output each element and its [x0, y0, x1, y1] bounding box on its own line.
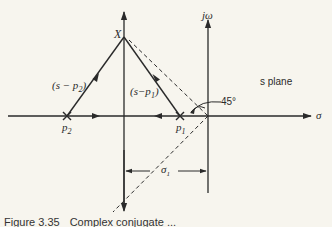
pole-p1-label: p1: [176, 122, 186, 136]
axis-arrow-icon: [154, 113, 162, 119]
sigma1-label: σ1: [161, 164, 170, 178]
axis-arrow-icon: [92, 113, 100, 119]
s-plane-diagram: [0, 0, 332, 227]
figure-caption: Figure 3.35Complex conjugate ...: [4, 216, 176, 227]
s-plane-label: s plane: [260, 77, 292, 87]
caption-text: Complex conjugate ...: [70, 216, 176, 227]
vector-s-minus-p1-label: (s−p1): [130, 86, 159, 100]
caption-number: Figure 3.35: [4, 216, 60, 227]
test-point-label: X: [114, 28, 121, 40]
angle-label: 45°: [221, 97, 236, 107]
pole-p2-label: p2: [62, 122, 72, 136]
vector-s-minus-p2-label: (s − p2): [52, 80, 86, 94]
dashed-line-upper: [129, 40, 208, 116]
angle-leader: [192, 102, 221, 112]
jw-axis-label: jω: [202, 10, 213, 21]
sigma-axis-label: σ: [316, 110, 321, 121]
vector-s-minus-p1: [124, 37, 180, 116]
